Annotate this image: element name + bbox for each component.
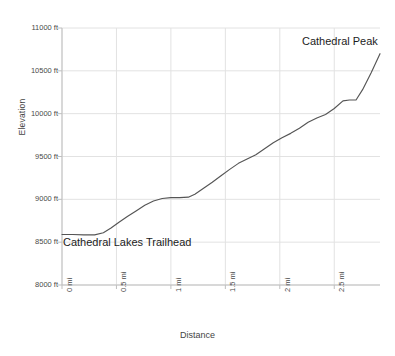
y-tick-label: 9500 ft	[0, 152, 58, 161]
x-tick-label: 0 mi	[65, 278, 74, 292]
y-tick-label: 9000 ft	[0, 194, 58, 203]
tick-marks	[58, 28, 334, 289]
annotation-trailhead: Cathedral Lakes Trailhead	[63, 236, 191, 248]
x-tick-label: 0.5 mi	[119, 272, 128, 292]
plot-area	[0, 0, 395, 356]
y-tick-label: 8500 ft	[0, 237, 58, 246]
elevation-profile-chart: Elevation 8000 ft8500 ft9000 ft9500 ft10…	[0, 0, 395, 356]
x-axis-title: Distance	[0, 330, 395, 340]
y-tick-label: 11000 ft	[0, 23, 58, 32]
y-tick-label: 10500 ft	[0, 66, 58, 75]
y-tick-label: 10000 ft	[0, 109, 58, 118]
y-tick-label: 8000 ft	[0, 280, 58, 289]
x-tick-label: 2 mi	[283, 278, 292, 292]
elevation-line-series	[62, 54, 380, 235]
x-tick-label: 2.5 mi	[337, 272, 346, 292]
annotation-peak: Cathedral Peak	[302, 35, 378, 47]
x-tick-label: 1 mi	[174, 278, 183, 292]
x-tick-label: 1.5 mi	[228, 272, 237, 292]
